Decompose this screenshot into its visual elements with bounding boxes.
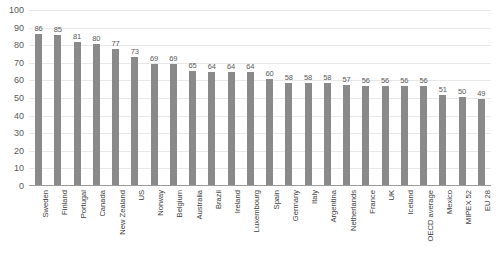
bar-slot: 69	[164, 9, 183, 185]
x-axis-tick-label: Belgium	[177, 163, 185, 190]
bar-value-label: 56	[414, 77, 433, 85]
bar-value-label: 50	[453, 88, 472, 96]
bar-value-label: 81	[68, 33, 87, 41]
x-axis-tick: Netherlands	[337, 188, 356, 270]
x-axis-tick: Luxembourg	[241, 188, 260, 270]
bar[interactable]	[35, 34, 42, 185]
x-axis-tick: MIPEX 52	[453, 188, 472, 270]
bar-slot: 69	[145, 9, 164, 185]
bar-slot: 56	[395, 9, 414, 185]
x-axis-tick: EU 28	[472, 188, 491, 270]
x-axis-tick-label: Germany	[292, 159, 300, 190]
bar-value-label: 58	[299, 74, 318, 82]
bar-slot: 81	[68, 9, 87, 185]
bar-slot: 86	[29, 9, 48, 185]
bar-value-label: 57	[337, 76, 356, 84]
bar-value-label: 80	[87, 35, 106, 43]
bar-value-label: 69	[145, 55, 164, 63]
x-axis-tick: UK	[376, 188, 395, 270]
bar-slot: 73	[125, 9, 144, 185]
x-axis-tick: Spain	[260, 188, 279, 270]
y-axis-tick: 100	[9, 6, 24, 15]
bar-value-label: 56	[395, 77, 414, 85]
x-axis-tick-label: Luxembourg	[254, 148, 262, 190]
bar-slot: 51	[433, 9, 452, 185]
x-axis-tick: Germany	[279, 188, 298, 270]
x-axis-tick: Portugal	[68, 188, 87, 270]
x-axis-tick-label: OECD average	[427, 139, 435, 191]
x-axis-tick: Belgium	[164, 188, 183, 270]
x-axis-tick-label: Ireland	[235, 167, 243, 190]
bar-slot: 58	[299, 9, 318, 185]
x-axis-tick: Canada	[87, 188, 106, 270]
bar[interactable]	[343, 85, 350, 185]
y-axis-tick: 20	[14, 146, 24, 155]
y-axis-tick: 40	[14, 111, 24, 120]
bar-value-label: 64	[241, 63, 260, 71]
x-axis-tick-label: Mexico	[446, 166, 454, 190]
bar-value-label: 69	[164, 55, 183, 63]
y-axis-tick: 80	[14, 41, 24, 50]
bar[interactable]	[362, 86, 369, 185]
bar-slot: 64	[202, 9, 221, 185]
bar-value-label: 58	[279, 74, 298, 82]
x-axis-tick: Sweden	[29, 188, 48, 270]
x-axis-tick: US	[125, 188, 144, 270]
bar[interactable]	[382, 86, 389, 185]
bar-value-label: 86	[29, 25, 48, 33]
bar[interactable]	[54, 35, 61, 185]
bar-value-label: 77	[106, 40, 125, 48]
x-axis-tick: Finland	[48, 188, 67, 270]
x-axis-tick-label: Portugal	[81, 162, 89, 190]
bar[interactable]	[189, 71, 196, 185]
bar-value-label: 56	[376, 77, 395, 85]
bar[interactable]	[285, 83, 292, 185]
x-axis-tick: France	[356, 188, 375, 270]
x-axis-tick-label: Australia	[196, 160, 204, 190]
bar-value-label: 73	[125, 48, 144, 56]
x-axis-tick: Italy	[299, 188, 318, 270]
bar-slot: 56	[376, 9, 395, 185]
x-axis-tick-label: Netherlands	[350, 149, 358, 190]
x-axis-tick: Australia	[183, 188, 202, 270]
x-axis-tick-label: New Zealand	[119, 145, 127, 190]
bar-value-label: 64	[202, 63, 221, 71]
bar-chart: 1009080706050403020100 86858180777369696…	[0, 0, 501, 270]
x-axis-tick-label: Finland	[61, 165, 69, 190]
bar-value-label: 51	[433, 86, 452, 94]
bar[interactable]	[131, 57, 138, 185]
x-axis-tick: New Zealand	[106, 188, 125, 270]
bar-value-label: 85	[48, 26, 67, 34]
x-axis-tick-label: Sweden	[42, 163, 50, 190]
y-axis-tick: 0	[19, 182, 24, 191]
x-axis-labels: SwedenFinlandPortugalCanadaNew ZealandUS…	[29, 188, 491, 270]
bar-slot: 49	[472, 9, 491, 185]
y-axis-tick: 90	[14, 23, 24, 32]
bar-value-label: 49	[472, 90, 491, 98]
x-axis-tick-label: MIPEX 52	[466, 156, 474, 190]
x-axis-tick: Argentina	[318, 188, 337, 270]
bar-slot: 85	[48, 9, 67, 185]
x-axis-tick: Iceland	[395, 188, 414, 270]
bar[interactable]	[305, 83, 312, 185]
bar[interactable]	[112, 49, 119, 185]
bar[interactable]	[208, 72, 215, 185]
x-axis-tick-label: Iceland	[408, 166, 416, 191]
y-axis-tick: 30	[14, 129, 24, 138]
y-axis-tick: 50	[14, 94, 24, 103]
bar-value-label: 65	[183, 62, 202, 70]
x-axis-tick: Brazil	[202, 188, 221, 270]
y-axis-tick: 10	[14, 164, 24, 173]
bar[interactable]	[439, 95, 446, 185]
y-axis: 1009080706050403020100	[0, 10, 27, 186]
x-axis-tick-label: France	[369, 166, 377, 190]
bar-value-label: 56	[356, 77, 375, 85]
bar[interactable]	[266, 79, 273, 185]
x-axis-tick: Mexico	[433, 188, 452, 270]
bar-slot: 65	[183, 9, 202, 185]
bar-value-label: 60	[260, 70, 279, 78]
bar-slot: 80	[87, 9, 106, 185]
bar-slot: 60	[260, 9, 279, 185]
bar[interactable]	[420, 86, 427, 185]
x-axis-tick-label: EU 28	[485, 169, 493, 190]
